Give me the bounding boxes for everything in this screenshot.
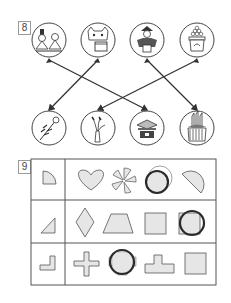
kadomatsu-icon[interactable]: [180, 111, 214, 145]
connection-line: [49, 60, 98, 110]
worksheet-canvas: [0, 0, 231, 303]
oni-mask-bean-box-icon[interactable]: [81, 23, 115, 57]
susuki-grass-vase-icon[interactable]: [81, 111, 115, 145]
connection-line: [49, 60, 147, 110]
connection-line: [98, 60, 197, 110]
square-option-2[interactable]: [185, 253, 206, 274]
may-dolls-warrior-icon[interactable]: [130, 23, 164, 57]
square-option[interactable]: [145, 213, 166, 234]
hina-dolls-icon[interactable]: [32, 23, 66, 57]
question-9-table: [31, 159, 216, 285]
question-8: [32, 23, 214, 145]
peach-blossom-icon[interactable]: [32, 111, 66, 145]
moon-dango-icon[interactable]: [180, 23, 214, 57]
square-with-circle-option[interactable]: [179, 211, 204, 235]
connection-line: [147, 60, 197, 110]
plus-square-option[interactable]: [109, 250, 136, 275]
iris-kabuto-box-icon[interactable]: [130, 111, 164, 145]
